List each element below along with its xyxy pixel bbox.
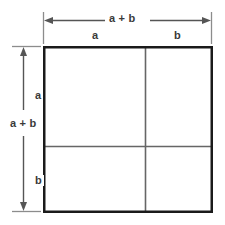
figure-canvas [0, 0, 225, 225]
arrowhead-left-bottom [20, 202, 27, 211]
binomial-square-figure: a + b a b a + b a b [0, 0, 225, 225]
left-segment-b-label: b [33, 175, 44, 186]
top-segment-a-label: a [90, 30, 100, 41]
left-segment-a-label: a [33, 90, 43, 101]
left-total-dimension-label: a + b [8, 118, 38, 129]
top-total-dimension-label: a + b [107, 13, 137, 24]
arrowhead-top-left [44, 17, 53, 24]
left-dimension-arrow [20, 47, 27, 211]
inner-dividers [44, 47, 211, 211]
top-segment-b-label: b [172, 30, 183, 41]
arrowhead-top-right [202, 17, 211, 24]
arrowhead-left-top [20, 47, 27, 56]
outer-square [44, 47, 212, 212]
